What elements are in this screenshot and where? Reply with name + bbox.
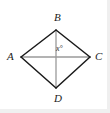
angle-label-x: x° (56, 45, 63, 53)
vertex-label-c: C (95, 51, 102, 62)
side-c-d (56, 57, 90, 88)
side-a-b (21, 30, 56, 57)
geometry-figure: A B C D x° (0, 0, 110, 113)
side-d-a (21, 57, 56, 88)
vertex-label-b: B (54, 12, 61, 23)
vertex-label-d: D (54, 93, 62, 104)
vertex-label-a: A (7, 51, 14, 62)
diagonals-group (21, 30, 90, 88)
